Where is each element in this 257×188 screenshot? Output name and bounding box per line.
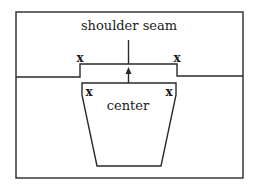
shoulder-mark-left: x xyxy=(76,51,84,65)
center-label: center xyxy=(107,98,150,113)
arrow-up-icon xyxy=(126,67,132,74)
pattern-diagram: shoulder seam x x x x center xyxy=(0,0,257,188)
pattern-piece xyxy=(82,83,176,166)
outer-frame xyxy=(16,12,243,178)
shoulder-mark-right: x xyxy=(173,51,181,65)
shoulder-seam-label: shoulder seam xyxy=(81,18,177,33)
piece-mark-left: x xyxy=(85,85,93,99)
piece-mark-right: x xyxy=(165,85,173,99)
